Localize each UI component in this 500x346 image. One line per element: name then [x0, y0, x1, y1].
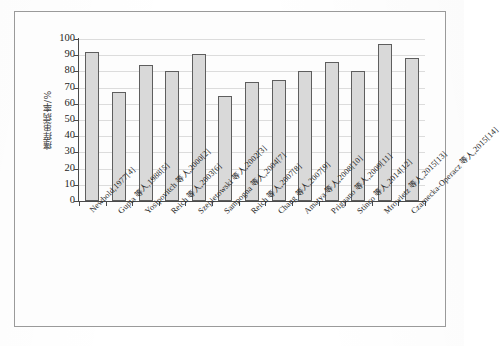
y-tick-label: 50	[49, 115, 75, 123]
y-tick-label: 30	[49, 147, 75, 155]
figure-frame: 瘙痒患病率/% 0102030405060708090100 Newbold,1…	[14, 11, 446, 327]
y-tick-label: 90	[49, 50, 75, 58]
y-tick-label: 80	[49, 66, 75, 74]
y-tick-label: 10	[49, 180, 75, 188]
y-tick-label: 60	[49, 99, 75, 107]
y-tick-label: 40	[49, 131, 75, 139]
y-tick-label: 100	[49, 34, 75, 42]
bar	[85, 52, 99, 201]
y-axis-tick-labels: 0102030405060708090100	[45, 38, 75, 202]
bar-chart: 瘙痒患病率/% 0102030405060708090100 Newbold,1…	[15, 12, 447, 328]
y-tick-label: 20	[49, 164, 75, 172]
y-tick-label: 70	[49, 83, 75, 91]
y-tick-label: 0	[49, 196, 75, 204]
x-axis-tick-labels: Newbold,1977[4]Gupta 等人,1988[5]Yosipovit…	[15, 206, 447, 328]
